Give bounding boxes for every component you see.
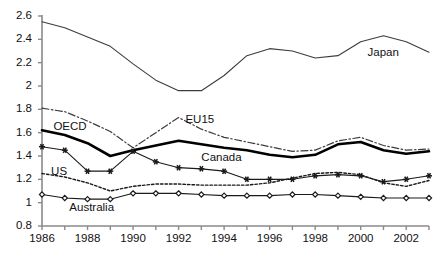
y-tick-label: 2.2 [2, 57, 32, 68]
data-point-marker [176, 191, 181, 196]
data-point-marker [221, 169, 227, 174]
series-line-australia [42, 193, 429, 199]
series-label-japan: Japan [368, 46, 399, 58]
data-point-marker [403, 177, 409, 182]
data-point-marker [404, 195, 409, 200]
data-point-marker [313, 192, 318, 197]
data-point-marker [199, 192, 204, 197]
y-tick-label: 2.6 [2, 10, 32, 21]
data-point-marker [153, 159, 159, 164]
data-point-marker [62, 195, 67, 200]
data-point-marker [176, 165, 182, 170]
data-point-marker [290, 192, 295, 197]
data-point-marker [335, 193, 340, 198]
data-point-marker [153, 191, 158, 196]
y-tick-label: 1.2 [2, 173, 32, 184]
series-label-australia: Australia [69, 201, 114, 213]
series-label-canada: Canada [201, 151, 241, 163]
data-point-marker [267, 193, 272, 198]
y-tick-label: 1 [2, 197, 32, 208]
data-point-marker [130, 191, 135, 196]
x-tick-label: 1988 [66, 233, 110, 244]
data-point-marker [39, 192, 44, 197]
y-tick-label: 0.8 [2, 220, 32, 231]
data-point-marker [222, 193, 227, 198]
y-tick-label: 2 [2, 80, 32, 91]
data-point-marker [244, 193, 249, 198]
data-point-marker [267, 177, 273, 182]
x-tick-label: 2002 [384, 233, 428, 244]
data-point-marker [244, 177, 250, 182]
data-point-marker [198, 166, 204, 171]
x-tick-label: 1998 [293, 233, 337, 244]
x-tick-label: 1990 [111, 233, 155, 244]
data-point-marker [358, 194, 363, 199]
line-chart: 0.811.21.41.61.822.22.42.619861988199019… [0, 0, 435, 259]
y-tick-label: 2.4 [2, 33, 32, 44]
series-label-oecd: OECD [53, 120, 86, 132]
y-tick-label: 1.4 [2, 150, 32, 161]
series-label-eu15: EU15 [185, 113, 214, 125]
y-tick-label: 1.8 [2, 103, 32, 114]
series-label-us: US [51, 165, 67, 177]
x-tick-label: 2000 [339, 233, 383, 244]
data-point-marker [381, 195, 386, 200]
x-tick-label: 1986 [20, 233, 64, 244]
x-tick-label: 1992 [157, 233, 201, 244]
x-tick-label: 1996 [248, 233, 292, 244]
data-point-marker [426, 195, 431, 200]
x-tick-label: 1994 [202, 233, 246, 244]
data-point-marker [426, 173, 432, 178]
y-tick-label: 1.6 [2, 127, 32, 138]
